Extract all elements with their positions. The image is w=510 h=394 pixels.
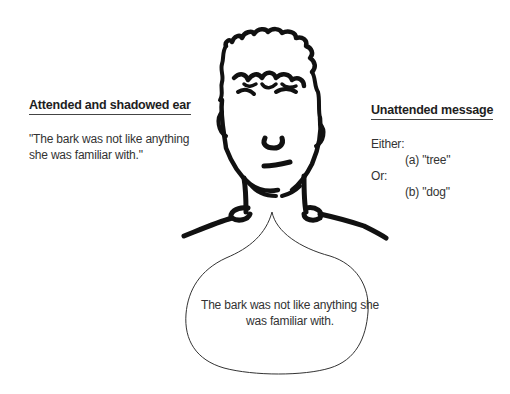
- thought-bubble-line-2: was familiar with.: [200, 313, 380, 329]
- option-b-dog: (b) "dog": [405, 184, 450, 200]
- hair-icon: [226, 29, 315, 72]
- thought-bubble-text: The bark was not like anything she was f…: [200, 297, 380, 329]
- thought-bubble-line-1: The bark was not like anything she: [200, 297, 380, 313]
- option-a-tree: (a) "tree": [405, 152, 450, 168]
- attended-quote-line-1: "The bark was not like anything: [29, 131, 189, 147]
- or-label: Or:: [371, 168, 387, 184]
- unattended-message-heading: Unattended message: [371, 103, 493, 120]
- attended-quote-line-2: she was familiar with.": [29, 147, 143, 163]
- attended-ear-heading: Attended and shadowed ear: [29, 98, 191, 115]
- thought-bubble-outline: [186, 212, 368, 374]
- either-label: Either:: [371, 136, 404, 152]
